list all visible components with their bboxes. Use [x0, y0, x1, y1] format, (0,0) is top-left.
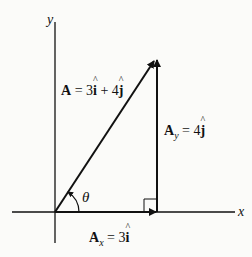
- right-angle-marker: [144, 199, 157, 212]
- equals-sign: =: [182, 123, 190, 138]
- x-axis-label: x: [238, 205, 244, 219]
- vector-diagram: y x A = 3i + 4j Ay = 4j Ax = 3i θ: [0, 0, 252, 257]
- angle-arc: [68, 192, 79, 212]
- j-hat-unit: j: [119, 84, 124, 98]
- vector-name: A: [61, 83, 71, 98]
- i-hat-unit: i: [125, 231, 129, 245]
- plus-sign: +: [100, 83, 108, 98]
- x-component-label: Ax = 3i: [89, 231, 129, 245]
- y-coeff: 4: [112, 83, 119, 98]
- y-component-subscript: y: [174, 130, 178, 141]
- equals-sign: =: [75, 83, 83, 98]
- y-component-name: A: [164, 123, 174, 138]
- y-axis-label: y: [47, 13, 53, 27]
- vector-equation-label: A = 3i + 4j: [61, 84, 124, 98]
- j-hat-unit: j: [200, 124, 205, 138]
- diagram-graphics: [0, 0, 252, 257]
- equals-sign: =: [107, 230, 115, 245]
- x-component-subscript: x: [99, 237, 103, 248]
- x-component-name: A: [89, 230, 99, 245]
- angle-theta-label: θ: [82, 190, 89, 205]
- i-hat-unit: i: [93, 84, 97, 98]
- x-coeff: 3: [86, 83, 93, 98]
- x-component-coeff: 3: [118, 230, 125, 245]
- y-component-label: Ay = 4j: [164, 124, 205, 138]
